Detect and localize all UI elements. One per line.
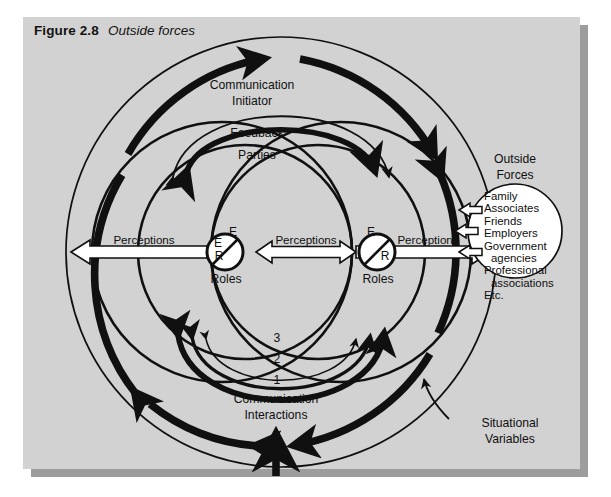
label-outside-forces-line1: Outside (460, 152, 570, 167)
role-letter-right-e: E (364, 225, 378, 240)
interaction-arc-number-1: 1 (256, 373, 298, 388)
role-letter-left-e: E (226, 225, 240, 240)
perceptions-label-center: Perceptions (262, 232, 350, 247)
role-letter-right-r: R (378, 249, 392, 264)
label-feedback: Feedback (212, 126, 302, 141)
outside-forces-item: Associates (484, 202, 554, 214)
outside-forces-item: Employers (484, 227, 554, 239)
roles-label-right: Roles (350, 272, 406, 287)
outside-forces-item: associations (484, 277, 554, 289)
outside-forces-item: Etc. (484, 289, 554, 301)
roles-label-left: Roles (198, 272, 254, 287)
perceptions-label-right: Perceptions (382, 232, 474, 247)
perceptions-label-left: Perceptions (98, 232, 190, 247)
label-communication-initiator-line1: Communication (182, 78, 322, 93)
figure-number: Figure 2.8 (34, 23, 99, 38)
figure-stage: Figure 2.8 Outside forces Communication … (0, 0, 611, 497)
label-communication-initiator-line2: Initiator (182, 94, 322, 109)
label-situational-variables-line2: Variables (455, 432, 565, 447)
outside-forces-list: Family Associates Friends Employers Gove… (484, 190, 554, 302)
label-communication-interactions-line1: Communication (196, 392, 356, 407)
label-outside-forces-line2: Forces (460, 168, 570, 183)
situational-variables-pointer (424, 379, 449, 419)
outside-forces-item: Family (484, 190, 554, 202)
role-letter-left-r: R (212, 249, 226, 264)
label-communication-interactions-line2: Interactions (196, 408, 356, 423)
outside-forces-item: Government (484, 240, 554, 252)
label-situational-variables-line1: Situational (455, 416, 565, 431)
label-parties: Parties (212, 148, 302, 163)
interaction-arc-number-3: 3 (256, 331, 298, 346)
outside-forces-item: agencies (484, 252, 554, 264)
outside-forces-item: Professional (484, 264, 554, 276)
outside-forces-item: Friends (484, 215, 554, 227)
figure-title: Outside forces (108, 23, 195, 38)
interaction-arc-number-2: 2 (256, 352, 298, 367)
